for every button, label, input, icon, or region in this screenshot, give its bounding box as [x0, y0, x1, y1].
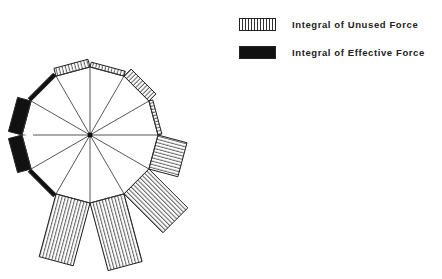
- solid-swatch-icon: [239, 46, 276, 59]
- legend-label-unused: Integral of Unused Force: [292, 19, 418, 30]
- effective-force-bar: [8, 135, 31, 173]
- hatch-swatch-icon: [239, 18, 276, 31]
- spoke-line: [56, 76, 90, 135]
- spoke-line: [90, 135, 124, 194]
- spoke-line: [90, 135, 149, 169]
- unused-force-bar: [90, 194, 142, 271]
- spoke-line: [90, 101, 149, 135]
- legend-label-effective: Integral of Effective Force: [292, 47, 425, 58]
- spoke-line: [31, 135, 90, 169]
- pointer-triangle-icon: [24, 132, 33, 138]
- unused-force-bar: [90, 62, 125, 76]
- center-hub: [88, 133, 93, 138]
- legend: Integral of Unused Force Integral of Eff…: [239, 14, 425, 70]
- effective-force-bar: [28, 169, 56, 197]
- unused-force-bar: [124, 169, 188, 233]
- unused-force-bar: [39, 194, 90, 266]
- unused-force-bar: [149, 100, 162, 135]
- legend-item-unused: Integral of Unused Force: [239, 14, 425, 34]
- unused-force-bar: [54, 59, 90, 76]
- spoke-line: [31, 101, 90, 135]
- spoke-line: [90, 76, 124, 135]
- force-bars: [8, 59, 187, 270]
- unused-force-bar: [124, 69, 156, 101]
- effective-force-bar: [8, 97, 31, 135]
- effective-force-bar: [28, 73, 56, 101]
- legend-item-effective: Integral of Effective Force: [239, 42, 425, 62]
- unused-force-bar: [149, 135, 187, 177]
- spoke-line: [56, 135, 90, 194]
